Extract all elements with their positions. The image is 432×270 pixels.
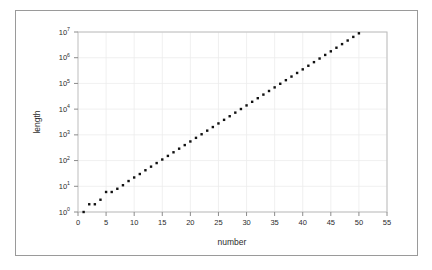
x-axis-tick-labels: 0510152025303540455055: [76, 218, 391, 227]
data-point: [133, 176, 135, 178]
data-point: [268, 90, 270, 92]
data-point: [206, 129, 208, 131]
data-point: [228, 115, 230, 117]
data-point: [273, 86, 275, 88]
y-axis-tick-labels: 100101102103104105106107: [59, 26, 70, 216]
data-point: [279, 83, 281, 85]
data-point: [99, 199, 101, 201]
data-point: [307, 65, 309, 67]
data-point: [223, 119, 225, 121]
data-point: [88, 203, 90, 205]
svg-text:35: 35: [270, 218, 278, 227]
svg-text:25: 25: [214, 218, 222, 227]
data-point: [240, 108, 242, 110]
data-point: [189, 140, 191, 142]
svg-text:105: 105: [59, 78, 70, 88]
data-point: [144, 169, 146, 171]
plot-container: 100101102103104105106107 051015202530354…: [0, 0, 432, 270]
data-point: [245, 104, 247, 106]
chart-svg: 100101102103104105106107 051015202530354…: [0, 0, 432, 270]
data-point: [251, 101, 253, 103]
data-point: [290, 75, 292, 77]
svg-text:103: 103: [59, 129, 70, 139]
data-point: [330, 50, 332, 52]
data-point: [161, 158, 163, 160]
chart-screenshot: 100101102103104105106107 051015202530354…: [0, 0, 432, 270]
data-point: [150, 165, 152, 167]
data-point: [217, 122, 219, 124]
data-point: [94, 203, 96, 205]
data-point: [318, 57, 320, 59]
svg-text:5: 5: [104, 218, 108, 227]
data-point: [352, 36, 354, 38]
data-point: [172, 151, 174, 153]
y-axis-ticks: [74, 32, 78, 212]
data-point: [127, 180, 129, 182]
data-point: [234, 111, 236, 113]
svg-text:55: 55: [383, 218, 391, 227]
svg-text:40: 40: [299, 218, 307, 227]
plot-area-frame: [78, 32, 387, 212]
svg-text:45: 45: [327, 218, 335, 227]
data-point: [346, 39, 348, 41]
svg-text:106: 106: [59, 52, 70, 62]
data-point: [195, 137, 197, 139]
svg-text:50: 50: [355, 218, 363, 227]
svg-text:102: 102: [59, 155, 70, 165]
x-axis-ticks: [78, 212, 387, 216]
data-point: [184, 144, 186, 146]
svg-text:30: 30: [242, 218, 250, 227]
svg-text:107: 107: [59, 26, 70, 36]
svg-text:15: 15: [158, 218, 166, 227]
y-axis-title: length: [32, 110, 42, 133]
svg-text:20: 20: [186, 218, 194, 227]
data-point: [139, 173, 141, 175]
data-point: [335, 47, 337, 49]
data-point: [116, 188, 118, 190]
svg-text:10: 10: [130, 218, 138, 227]
svg-text:104: 104: [59, 103, 70, 113]
data-point: [285, 79, 287, 81]
data-point: [178, 147, 180, 149]
data-point: [105, 191, 107, 193]
data-point: [111, 191, 113, 193]
svg-text:101: 101: [59, 180, 70, 190]
data-point: [341, 43, 343, 45]
svg-text:100: 100: [59, 206, 70, 216]
data-point: [200, 133, 202, 135]
x-axis-title: number: [218, 237, 247, 247]
grid-lines: [78, 32, 387, 212]
data-point: [296, 72, 298, 74]
data-point: [167, 155, 169, 157]
data-point: [155, 162, 157, 164]
svg-text:0: 0: [76, 218, 80, 227]
data-point: [82, 211, 84, 213]
data-point: [313, 61, 315, 63]
data-point: [262, 93, 264, 95]
data-point: [302, 68, 304, 70]
data-point: [212, 126, 214, 128]
data-point: [358, 32, 360, 34]
data-point: [122, 184, 124, 186]
data-point: [257, 97, 259, 99]
data-point: [324, 54, 326, 56]
